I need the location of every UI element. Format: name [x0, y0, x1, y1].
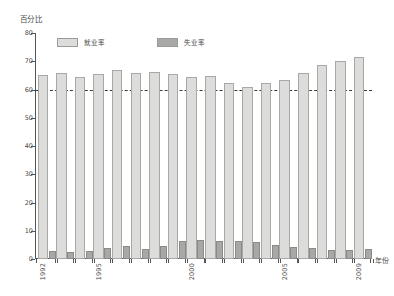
x-axis-tick-mark — [150, 259, 151, 263]
bar-group — [186, 33, 205, 259]
bar-employment-rate — [186, 77, 197, 259]
bar-group — [317, 33, 336, 259]
bar-group — [354, 33, 373, 259]
x-axis-tick-mark — [112, 259, 113, 263]
x-axis-tick-mark — [373, 259, 374, 263]
bar-group — [261, 33, 280, 259]
y-axis-tick-label: 40 — [25, 142, 33, 150]
bar-group — [149, 33, 168, 259]
x-axis-tick-mark — [336, 259, 337, 263]
bar-employment-rate — [131, 73, 142, 259]
bar-employment-rate — [149, 72, 160, 259]
bar-unemployment-rate — [253, 242, 260, 259]
bar-employment-rate — [317, 65, 328, 259]
bar-group — [205, 33, 224, 259]
x-axis-tick-label: 1992 — [39, 263, 47, 280]
x-axis-tick-mark — [317, 259, 318, 263]
x-axis-tick-label: 2000 — [188, 263, 196, 280]
bar-unemployment-rate — [160, 246, 167, 259]
x-axis-tick-mark — [241, 259, 242, 263]
x-axis-tick-mark — [298, 259, 299, 263]
bar-unemployment-rate — [142, 249, 149, 259]
x-axis-tick-mark — [166, 259, 167, 263]
bar-group — [335, 33, 354, 259]
bars-layer — [36, 33, 372, 259]
x-axis-tick-mark — [168, 259, 169, 263]
x-axis-tick-mark — [36, 259, 37, 263]
y-axis-tick-label: 70 — [25, 57, 33, 65]
bar-unemployment-rate — [290, 247, 297, 259]
bar-group — [112, 33, 131, 259]
bar-unemployment-rate — [346, 250, 353, 259]
x-axis-tick-mark — [243, 259, 244, 263]
plot-area: 01020304050607080 — [35, 33, 372, 259]
bar-unemployment-rate — [197, 240, 204, 259]
x-axis-tick-mark — [110, 259, 111, 263]
bar-group — [75, 33, 94, 259]
y-axis-tick-label: 60 — [25, 86, 33, 94]
bar-group — [93, 33, 112, 259]
bar-unemployment-rate — [86, 251, 93, 259]
x-axis-tick-mark — [92, 259, 93, 263]
x-axis-tick-mark — [334, 259, 335, 263]
bar-unemployment-rate — [235, 241, 242, 259]
bar-employment-rate — [38, 75, 49, 259]
bar-employment-rate — [75, 77, 86, 259]
x-axis-tick-mark — [370, 259, 371, 263]
x-axis-tick-mark — [224, 259, 225, 263]
y-axis-tick-label: 10 — [25, 227, 33, 235]
bar-employment-rate — [354, 57, 365, 259]
x-axis-tick-mark — [259, 259, 260, 263]
bar-group — [131, 33, 150, 259]
bar-employment-rate — [279, 80, 290, 259]
x-axis-tick-mark — [205, 259, 206, 263]
x-axis-tick-label: 2009 — [355, 263, 363, 280]
bar-group — [298, 33, 317, 259]
bar-unemployment-rate — [123, 246, 130, 259]
x-axis-tick-mark — [278, 259, 279, 263]
bar-group — [279, 33, 298, 259]
x-axis-tick-mark — [57, 259, 58, 263]
x-axis-tick-mark — [185, 259, 186, 263]
x-axis-tick-mark — [352, 259, 353, 263]
bar-employment-rate — [242, 87, 253, 259]
x-axis-tick-mark — [315, 259, 316, 263]
bar-group — [242, 33, 261, 259]
bar-unemployment-rate — [179, 241, 186, 259]
bar-unemployment-rate — [272, 245, 279, 259]
bar-employment-rate — [335, 61, 346, 259]
employment-unemployment-bar-chart: 百分比 就业率 失业率 01020304050607080 1992199520… — [0, 0, 394, 296]
y-axis-tick-label: 30 — [25, 170, 33, 178]
x-axis-tick-label: 1995 — [95, 263, 103, 280]
bar-unemployment-rate — [328, 250, 335, 259]
bar-group — [224, 33, 243, 259]
x-axis-tick-mark — [297, 259, 298, 263]
bar-unemployment-rate — [104, 248, 111, 259]
bar-unemployment-rate — [216, 241, 223, 259]
x-axis-tick-mark — [148, 259, 149, 263]
x-axis-tick-mark — [131, 259, 132, 263]
bar-employment-rate — [112, 70, 123, 259]
bar-employment-rate — [261, 83, 272, 259]
x-axis-tick-mark — [75, 259, 76, 263]
bar-group — [168, 33, 187, 259]
x-axis-tick-mark — [261, 259, 262, 263]
bar-employment-rate — [56, 73, 67, 259]
x-axis-tick-mark — [73, 259, 74, 263]
bar-group — [56, 33, 75, 259]
x-axis-tick-label: 2005 — [281, 263, 289, 280]
bar-unemployment-rate — [309, 248, 316, 259]
bar-employment-rate — [205, 76, 216, 259]
x-axis-tick-mark — [55, 259, 56, 263]
bar-group — [38, 33, 57, 259]
y-axis-title: 百分比 — [20, 13, 42, 24]
x-axis-title: 年份 — [375, 255, 389, 265]
x-axis-tick-mark — [129, 259, 130, 263]
bar-employment-rate — [224, 83, 235, 259]
y-axis-tick-label: 80 — [25, 29, 33, 37]
bar-unemployment-rate — [365, 249, 372, 259]
y-axis-tick-label: 0 — [29, 255, 33, 263]
y-axis-tick-label: 20 — [25, 199, 33, 207]
bar-employment-rate — [168, 74, 179, 259]
bar-unemployment-rate — [49, 251, 56, 259]
